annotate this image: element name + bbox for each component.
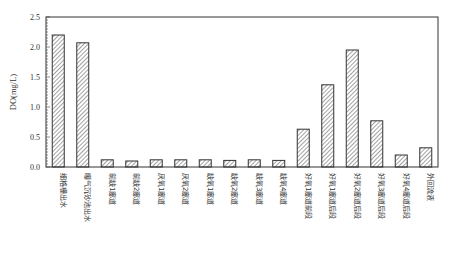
y-tick-label: 1.0	[30, 103, 40, 112]
x-category-label: 外回流液	[426, 173, 435, 201]
x-category-label: 好氧2廊道后段	[353, 173, 362, 219]
x-category-label: 缺氧1廊道	[206, 173, 215, 205]
x-category-label: 缺氧4廊道	[279, 173, 288, 205]
y-tick-label: 0.0	[30, 163, 40, 172]
x-axis-category-labels: 细格栅出水曝气沉砂池出水前缺1廊道前缺2廊道厌氧1廊道厌氧2廊道缺氧1廊道缺氧2…	[59, 173, 436, 222]
y-tick-label: 0.5	[30, 133, 40, 142]
x-category-label: 缺氧3廊道	[255, 173, 264, 205]
bar	[371, 121, 383, 167]
bar	[273, 160, 285, 167]
bar	[199, 160, 211, 167]
bar	[297, 129, 309, 167]
x-category-label: 好氧4廊道后段	[402, 173, 411, 219]
bar	[420, 148, 432, 167]
bar	[322, 85, 334, 167]
y-tick-label: 2.5	[30, 13, 40, 22]
bars	[52, 35, 432, 167]
bar	[77, 43, 89, 167]
x-category-label: 厌氧2廊道	[181, 173, 190, 205]
x-category-label: 缺氧2廊道	[230, 173, 239, 205]
y-tick-label: 2.0	[30, 43, 40, 52]
x-category-label: 细格栅出水	[59, 173, 68, 208]
bar	[224, 160, 236, 167]
x-category-label: 好氧3廊道后段	[377, 173, 386, 219]
x-category-label: 厌氧1廊道	[157, 173, 166, 205]
y-tick-label: 1.5	[30, 73, 40, 82]
x-category-label: 曝气沉砂池出水	[83, 173, 92, 222]
y-axis-label: DO(mg/L)	[8, 74, 18, 111]
bar	[150, 160, 162, 167]
bar	[395, 155, 407, 167]
do-bar-chart: DO(mg/L) 0.00.51.01.52.02.5 细格栅出水曝气沉砂池出水…	[0, 0, 450, 253]
bar	[52, 35, 64, 167]
bar	[175, 160, 187, 167]
x-category-label: 好氧1廊道前段	[304, 173, 313, 219]
bar	[248, 160, 260, 167]
x-category-label: 前缺2廊道	[132, 173, 141, 205]
x-category-label: 好氧1廊道后段	[328, 173, 337, 219]
y-axis-ticks: 0.00.51.01.52.02.5	[30, 13, 50, 172]
bar	[126, 161, 138, 167]
bar	[101, 160, 113, 167]
x-category-label: 前缺1廊道	[108, 173, 117, 205]
bar	[346, 50, 358, 167]
y-axis-title: DO(mg/L)	[8, 74, 18, 111]
